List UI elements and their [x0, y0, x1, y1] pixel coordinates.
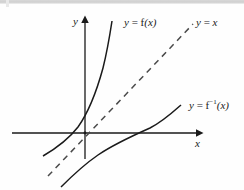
identity-line-label: y = x	[196, 17, 218, 28]
identity-label-eq: =	[201, 16, 213, 28]
function-label-eq: =	[129, 16, 141, 28]
graph-canvas	[0, 0, 244, 190]
identity-line	[48, 24, 193, 176]
inverse-label-arg: (x)	[217, 99, 229, 111]
inverse-label-exponent: −1	[209, 98, 216, 106]
function-label-arg: (x)	[144, 16, 156, 28]
x-axis-label: x	[195, 138, 200, 149]
y-axis-label: y	[73, 16, 78, 27]
function-curve-label: y = f(x)	[124, 17, 157, 28]
figure-container: y x y = f(x) y = x y = f−1(x)	[0, 0, 244, 190]
identity-label-rhs: x	[213, 16, 218, 28]
inverse-function-curve-label: y = f−1(x)	[189, 100, 229, 111]
origin-point	[84, 132, 87, 135]
function-curve	[43, 21, 112, 156]
inverse-label-eq: =	[194, 99, 206, 111]
inverse-function-curve	[61, 105, 181, 187]
